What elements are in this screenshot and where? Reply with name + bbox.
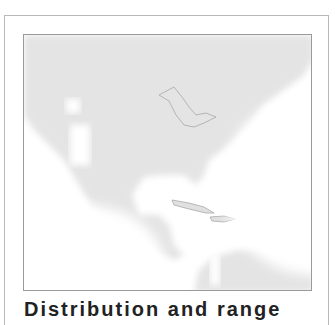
range-patch-3 — [210, 255, 220, 285]
range-map — [23, 34, 312, 291]
figure-caption: Distribution and range — [24, 298, 281, 321]
range-patch-2 — [70, 125, 90, 165]
cuba — [172, 200, 214, 213]
map-graphic — [24, 35, 312, 291]
range-patch-1 — [66, 99, 80, 113]
